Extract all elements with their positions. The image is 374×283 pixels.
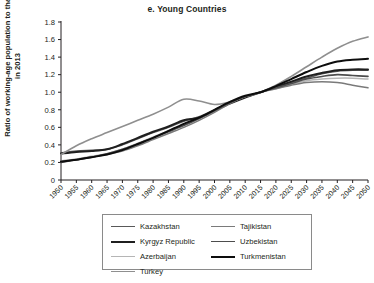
- legend-item: Kyrgyz Republic: [111, 234, 195, 249]
- y-tick-label: 1.2: [44, 70, 55, 79]
- chart-legend: KazakhstanKyrgyz RepublicAzerbaijanTurke…: [102, 214, 312, 270]
- legend-item: Tajikistan: [211, 219, 286, 234]
- chart-container: e. Young Countries Ratio of working-age …: [0, 0, 374, 283]
- x-tick-label: 2035: [308, 183, 326, 201]
- legend-label: Turkmenistan: [240, 252, 286, 262]
- y-tick-label: 0.6: [44, 123, 55, 132]
- legend-label: Turkey: [140, 267, 163, 277]
- legend-label: Uzbekistan: [240, 237, 278, 247]
- x-tick-label: 2000: [201, 183, 219, 201]
- x-tick-label: 1990: [170, 183, 188, 201]
- x-tick-label: 2010: [231, 183, 249, 201]
- legend-swatch-line-icon: [111, 226, 135, 227]
- x-tick-label: 2030: [293, 183, 311, 201]
- legend-item: Uzbekistan: [211, 234, 286, 249]
- x-tick-label: 1975: [124, 183, 142, 201]
- x-tick-label: 2045: [339, 183, 357, 201]
- x-tick-label: 1955: [63, 183, 81, 201]
- y-tick-label: 1.6: [44, 35, 55, 44]
- x-tick-label: 1985: [155, 183, 173, 201]
- legend-swatch-line-icon: [211, 241, 235, 242]
- legend-column-left: KazakhstanKyrgyz RepublicAzerbaijanTurke…: [111, 219, 195, 279]
- y-tick-label: 0.4: [44, 141, 55, 150]
- x-tick-label: 1965: [93, 183, 111, 201]
- x-tick-label: 2015: [247, 183, 265, 201]
- x-tick-label: 2050: [354, 183, 372, 201]
- y-tick-label: 1.4: [44, 53, 55, 62]
- legend-label: Kyrgyz Republic: [140, 237, 195, 247]
- legend-item: Azerbaijan: [111, 249, 195, 264]
- legend-swatch-line-icon: [111, 256, 135, 257]
- legend-item: Turkmenistan: [211, 249, 286, 264]
- x-tick-label: 2040: [324, 183, 342, 201]
- legend-swatch-line-icon: [111, 271, 135, 272]
- x-tick-label: 1980: [139, 183, 157, 201]
- y-tick-label: 0.8: [44, 106, 55, 115]
- y-tick-label: 0: [51, 176, 55, 185]
- x-tick-label: 2020: [262, 183, 280, 201]
- legend-label: Tajikistan: [240, 222, 271, 232]
- y-tick-label: 0.2: [44, 158, 55, 167]
- legend-item: Turkey: [111, 264, 195, 279]
- x-tick-label: 1995: [185, 183, 203, 201]
- x-tick-label: 2025: [277, 183, 295, 201]
- y-tick-label: 1.0: [44, 88, 55, 97]
- legend-label: Azerbaijan: [140, 252, 176, 262]
- legend-column-right: TajikistanUzbekistanTurkmenistan: [211, 219, 286, 264]
- legend-label: Kazakhstan: [140, 222, 180, 232]
- legend-swatch-line-icon: [211, 256, 235, 258]
- x-tick-label: 2005: [216, 183, 234, 201]
- x-tick-label: 1960: [78, 183, 96, 201]
- x-tick-label: 1950: [47, 183, 65, 201]
- series-line-turkey: [61, 37, 368, 155]
- y-tick-label: 1.8: [44, 18, 55, 27]
- legend-item: Kazakhstan: [111, 219, 195, 234]
- legend-swatch-line-icon: [111, 241, 135, 243]
- x-tick-label: 1970: [109, 183, 127, 201]
- legend-swatch-line-icon: [211, 226, 235, 227]
